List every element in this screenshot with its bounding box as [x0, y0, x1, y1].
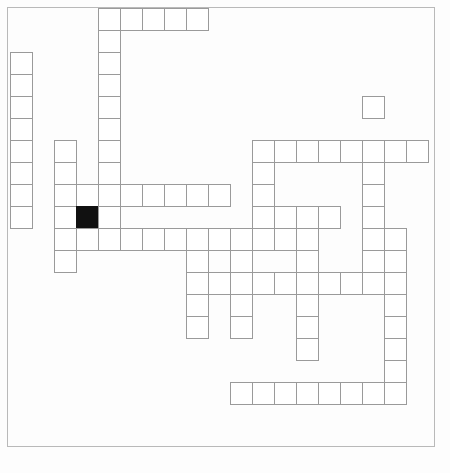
crossword-cell[interactable]: [54, 162, 77, 185]
crossword-cell[interactable]: [164, 228, 187, 251]
crossword-cell[interactable]: [98, 184, 121, 207]
crossword-cell[interactable]: [296, 382, 319, 405]
crossword-cell[interactable]: [296, 272, 319, 295]
crossword-cell[interactable]: [252, 140, 275, 163]
crossword-cell[interactable]: [318, 382, 341, 405]
crossword-cell[interactable]: [296, 338, 319, 361]
crossword-cell[interactable]: [274, 382, 297, 405]
crossword-cell[interactable]: [362, 96, 385, 119]
crossword-cell[interactable]: [142, 184, 165, 207]
crossword-cell[interactable]: [384, 272, 407, 295]
crossword-cell[interactable]: [98, 228, 121, 251]
crossword-cell[interactable]: [296, 294, 319, 317]
crossword-cell[interactable]: [54, 250, 77, 273]
crossword-cell[interactable]: [406, 140, 429, 163]
crossword-cell[interactable]: [384, 228, 407, 251]
crossword-cell[interactable]: [120, 228, 143, 251]
crossword-cell[interactable]: [296, 140, 319, 163]
crossword-cell[interactable]: [186, 316, 209, 339]
crossword-cell[interactable]: [274, 140, 297, 163]
crossword-cell[interactable]: [186, 184, 209, 207]
crossword-cell[interactable]: [10, 74, 33, 97]
crossword-cell[interactable]: [10, 162, 33, 185]
crossword-cell[interactable]: [252, 162, 275, 185]
crossword-cell[interactable]: [120, 8, 143, 31]
crossword-cell[interactable]: [98, 140, 121, 163]
crossword-cell[interactable]: [230, 250, 253, 273]
crossword-cell[interactable]: [10, 118, 33, 141]
crossword-cell[interactable]: [362, 250, 385, 273]
crossword-cell[interactable]: [230, 272, 253, 295]
crossword-cell[interactable]: [296, 228, 319, 251]
crossword-cell[interactable]: [142, 228, 165, 251]
crossword-cell[interactable]: [274, 228, 297, 251]
crossword-cell[interactable]: [362, 206, 385, 229]
crossword-cell[interactable]: [208, 184, 231, 207]
crossword-cell[interactable]: [230, 228, 253, 251]
crossword-cell[interactable]: [10, 140, 33, 163]
crossword-cell[interactable]: [274, 206, 297, 229]
crossword-cell[interactable]: [340, 382, 363, 405]
crossword-cell[interactable]: [252, 206, 275, 229]
crossword-cell[interactable]: [362, 140, 385, 163]
crossword-cell[interactable]: [252, 272, 275, 295]
crossword-cell[interactable]: [98, 118, 121, 141]
crossword-cell[interactable]: [362, 162, 385, 185]
crossword-cell[interactable]: [54, 228, 77, 251]
crossword-cell[interactable]: [10, 52, 33, 75]
crossword-cell[interactable]: [98, 30, 121, 53]
crossword-grid[interactable]: [0, 0, 450, 473]
crossword-cell[interactable]: [186, 294, 209, 317]
crossword-cell[interactable]: [142, 8, 165, 31]
crossword-cell[interactable]: [318, 206, 341, 229]
crossword-cell[interactable]: [98, 74, 121, 97]
crossword-cell[interactable]: [296, 206, 319, 229]
crossword-cell[interactable]: [186, 272, 209, 295]
crossword-cell[interactable]: [384, 250, 407, 273]
crossword-cell[interactable]: [340, 272, 363, 295]
crossword-cell[interactable]: [54, 206, 77, 229]
crossword-cell[interactable]: [362, 382, 385, 405]
crossword-cell[interactable]: [252, 184, 275, 207]
crossword-cell[interactable]: [186, 250, 209, 273]
crossword-cell[interactable]: [362, 272, 385, 295]
crossword-cell[interactable]: [230, 382, 253, 405]
crossword-cell[interactable]: [98, 96, 121, 119]
crossword-cell[interactable]: [98, 8, 121, 31]
crossword-cell[interactable]: [230, 294, 253, 317]
crossword-cell[interactable]: [208, 272, 231, 295]
crossword-cell[interactable]: [296, 250, 319, 273]
crossword-cell[interactable]: [384, 360, 407, 383]
crossword-cell[interactable]: [318, 272, 341, 295]
crossword-cell[interactable]: [274, 272, 297, 295]
crossword-cell[interactable]: [230, 316, 253, 339]
crossword-cell[interactable]: [318, 140, 341, 163]
crossword-cell[interactable]: [252, 382, 275, 405]
crossword-cell[interactable]: [384, 338, 407, 361]
crossword-cell[interactable]: [186, 8, 209, 31]
crossword-cell[interactable]: [186, 228, 209, 251]
crossword-cell[interactable]: [340, 140, 363, 163]
crossword-cell[interactable]: [10, 206, 33, 229]
crossword-cell[interactable]: [120, 184, 143, 207]
crossword-cell[interactable]: [384, 140, 407, 163]
crossword-cell[interactable]: [296, 316, 319, 339]
crossword-cell[interactable]: [164, 184, 187, 207]
crossword-cell[interactable]: [362, 228, 385, 251]
crossword-cell[interactable]: [76, 228, 99, 251]
crossword-cell[interactable]: [384, 294, 407, 317]
crossword-cell[interactable]: [362, 184, 385, 207]
crossword-cell[interactable]: [54, 140, 77, 163]
crossword-cell[interactable]: [164, 8, 187, 31]
crossword-cell[interactable]: [10, 96, 33, 119]
crossword-cell[interactable]: [76, 184, 99, 207]
crossword-cell[interactable]: [208, 228, 231, 251]
crossword-cell[interactable]: [384, 316, 407, 339]
crossword-cell[interactable]: [98, 162, 121, 185]
crossword-cell[interactable]: [54, 184, 77, 207]
crossword-cell[interactable]: [10, 184, 33, 207]
crossword-cell[interactable]: [98, 52, 121, 75]
crossword-cell[interactable]: [252, 228, 275, 251]
crossword-cell[interactable]: [98, 206, 121, 229]
crossword-cell[interactable]: [384, 382, 407, 405]
